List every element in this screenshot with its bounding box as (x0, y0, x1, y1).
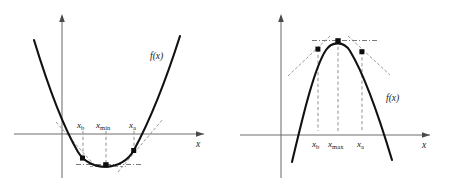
minimum-plot-svg: xb xmin xa f(x) x (0, 0, 226, 187)
marker-point-xb (80, 156, 85, 161)
figure-container: xb xmin xa f(x) x (0, 0, 452, 187)
maximum-plot-svg: xb xmax xa f(x) x (226, 0, 452, 187)
y-axis-arrowhead (59, 14, 65, 22)
label-xa: xa (128, 120, 136, 131)
marker-point-xb (315, 47, 320, 52)
label-xmin: xmin (95, 120, 111, 131)
label-xb: xb (311, 139, 320, 150)
curve-label-fx: f(x) (386, 92, 399, 104)
marker-point-xmax (335, 38, 340, 43)
x-axis-arrowhead (422, 132, 430, 138)
label-xmax: xmax (327, 139, 344, 150)
marker-point-xmin (103, 162, 108, 167)
x-axis-arrowhead (196, 131, 204, 137)
label-xb: xb (76, 120, 85, 131)
plot-panel-minimum: xb xmin xa f(x) x (0, 0, 226, 187)
marker-point-xa (359, 49, 364, 54)
curve-label-fx: f(x) (150, 50, 163, 62)
y-axis-arrowhead (278, 14, 284, 22)
marker-point-xa (131, 148, 136, 153)
tangent-at-xa (348, 36, 390, 75)
label-xa: xa (356, 139, 364, 150)
x-axis-label: x (421, 139, 427, 150)
x-axis-label: x (195, 138, 201, 149)
plot-panel-maximum: xb xmax xa f(x) x (226, 0, 452, 187)
